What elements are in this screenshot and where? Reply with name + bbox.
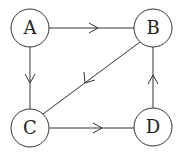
graph-canvas: A B C D [0,0,184,153]
node-a: A [11,9,49,47]
node-b: B [134,9,172,47]
graph-diagram: A B C D [0,0,184,153]
node-label: B [146,17,159,38]
node-d: D [134,108,172,146]
arrowhead-b-c [84,72,95,83]
node-c: C [11,109,49,147]
node-label: D [146,116,160,137]
edge-b-c [43,42,140,114]
node-label: C [23,117,37,138]
node-label: A [23,17,38,38]
